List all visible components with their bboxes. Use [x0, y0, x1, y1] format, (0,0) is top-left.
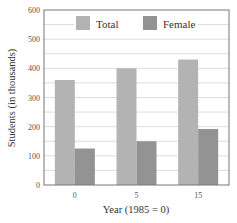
bar-female-5: [137, 141, 157, 185]
bar-chart: 0100200300400500600 0515 TotalFemale Yea…: [0, 0, 237, 223]
x-axis-ticks: 0515: [73, 191, 202, 200]
y-axis-ticks: 0100200300400500600: [28, 6, 40, 190]
y-tick-label: 100: [28, 152, 40, 161]
legend: TotalFemale: [74, 15, 198, 33]
legend-swatch-total: [76, 16, 90, 30]
bar-female-0: [75, 149, 95, 185]
y-tick-label: 0: [36, 181, 40, 190]
x-tick-label: 5: [135, 191, 139, 200]
bars: [55, 60, 218, 185]
bar-female-15: [198, 129, 218, 185]
x-tick-label: 15: [194, 191, 202, 200]
y-tick-label: 400: [28, 64, 40, 73]
y-axis-label: Students (in thousands): [6, 48, 18, 147]
bar-total-0: [55, 80, 75, 185]
legend-swatch-female: [143, 16, 157, 30]
y-tick-label: 300: [28, 94, 40, 103]
y-tick-label: 500: [28, 35, 40, 44]
legend-label-total: Total: [96, 18, 118, 30]
bar-total-15: [178, 60, 198, 185]
bar-total-5: [117, 68, 137, 185]
x-tick-label: 0: [73, 191, 77, 200]
x-axis-label: Year (1985 = 0): [103, 204, 170, 216]
y-tick-label: 200: [28, 123, 40, 132]
y-tick-label: 600: [28, 6, 40, 15]
legend-label-female: Female: [163, 18, 195, 30]
